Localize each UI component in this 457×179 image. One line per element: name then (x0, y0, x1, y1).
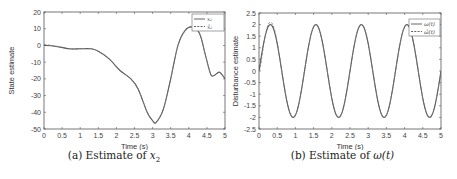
legend-entry-label: ω̂(t) (424, 29, 435, 35)
x-tick-label: 1 (78, 132, 82, 139)
x-tick-label: 4.5 (202, 132, 212, 139)
y-axis-label: Disturbance estimate (231, 36, 240, 106)
legend: ω(t)ω̂(t) (409, 19, 440, 36)
caption-b-math: ω(t) (373, 149, 394, 161)
x-tick-label: 1.5 (309, 132, 319, 139)
y-tick-label: -0.5 (244, 79, 256, 86)
x-tick-label: 0.5 (272, 132, 282, 139)
y-tick-label: 0.5 (246, 56, 256, 63)
y-tick-label: -1 (250, 91, 256, 98)
x-tick-label: 4 (403, 132, 407, 139)
x-tick-label: 0 (42, 132, 46, 139)
caption-a: (a) Estimate of x2 (0, 149, 228, 164)
x-tick-label: 1.5 (93, 132, 103, 139)
figure-a: 00.511.522.533.544.55-50-40-30-20-100102… (0, 0, 228, 179)
y-tick-label: -2.5 (244, 126, 256, 133)
y-tick-label: -1.5 (244, 102, 256, 109)
y-tick-label: 2.5 (246, 10, 256, 17)
x-tick-label: 3.5 (382, 132, 392, 139)
x-tick-label: 2.5 (130, 132, 140, 139)
x-tick-label: 3 (151, 132, 155, 139)
legend-entry-label: x₂ (207, 16, 212, 22)
legend-entry-label: x̂₂ (207, 24, 212, 30)
y-axis-label: State estimate (7, 47, 16, 95)
x-tick-label: 5 (439, 132, 443, 139)
x-tick-label: 2 (114, 132, 118, 139)
caption-a-text: (a) Estimate of (68, 149, 150, 161)
x-tick-label: 2.5 (345, 132, 355, 139)
y-tick-label: -30 (31, 92, 41, 99)
caption-b-text: (b) Estimate of (291, 149, 373, 161)
y-tick-label: 20 (33, 9, 41, 16)
y-tick-label: -2 (250, 114, 256, 121)
x-tick-label: 4.5 (418, 132, 428, 139)
chart-disturbance-estimate: 00.511.522.533.544.55-2.5-2-1.5-1-0.500.… (228, 0, 457, 150)
x-tick-label: 3 (366, 132, 370, 139)
x-tick-label: 4 (187, 132, 191, 139)
y-tick-label: 1 (252, 44, 256, 51)
legend: x₂x̂₂ (192, 14, 224, 31)
x-tick-label: 0 (257, 132, 261, 139)
y-tick-label: 10 (33, 25, 41, 32)
y-tick-label: 0 (252, 68, 256, 75)
x-tick-label: 3.5 (166, 132, 176, 139)
chart-state-estimate: 00.511.522.533.544.55-50-40-30-20-100102… (0, 0, 228, 150)
y-tick-label: -10 (31, 59, 41, 66)
x-tick-label: 2 (330, 132, 334, 139)
x-tick-label: 0.5 (57, 132, 67, 139)
y-tick-label: -40 (31, 109, 41, 116)
y-tick-label: -50 (31, 126, 41, 133)
y-tick-label: 1.5 (246, 33, 256, 40)
x-tick-label: 1 (293, 132, 297, 139)
y-tick-label: 2 (252, 21, 256, 28)
x-tick-label: 5 (223, 132, 227, 139)
y-tick-label: 0 (37, 42, 41, 49)
caption-b: (b) Estimate of ω(t) (228, 149, 457, 161)
legend-entry-label: ω(t) (424, 21, 435, 27)
y-tick-label: -20 (31, 75, 41, 82)
caption-a-sub: 2 (156, 156, 160, 164)
figure-b: 00.511.522.533.544.55-2.5-2-1.5-1-0.500.… (228, 0, 457, 179)
